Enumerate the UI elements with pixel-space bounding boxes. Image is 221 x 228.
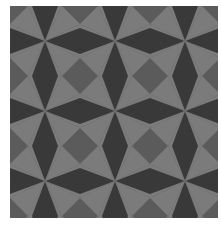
pattern-fill bbox=[10, 6, 218, 218]
tessellation-image bbox=[10, 6, 218, 218]
tessellation-svg bbox=[10, 6, 218, 218]
